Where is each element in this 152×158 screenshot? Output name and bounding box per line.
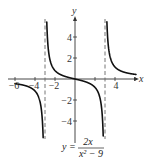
x-tick-label: −2	[49, 80, 60, 91]
curve-branch	[107, 22, 136, 75]
y-tick-label: 2	[67, 53, 72, 64]
x-tick-label: −4	[29, 80, 40, 91]
equation-lhs: y =	[61, 141, 76, 152]
y-tick-label: 4	[67, 32, 72, 43]
x-axis-label: x	[138, 73, 144, 84]
rational-function-graph: −6−4−2442−2−4 x y y = 2x x² − 9	[0, 0, 152, 158]
y-axis-arrow-icon	[73, 16, 77, 21]
curve-branch	[15, 84, 43, 138]
equation-numerator: 2x	[83, 136, 93, 147]
equation-denominator: x² − 9	[78, 148, 103, 158]
x-tick-label: 4	[114, 80, 119, 91]
equation: y = 2x x² − 9	[61, 136, 104, 158]
y-tick-label: −4	[61, 116, 72, 127]
x-tick-label: −6	[9, 80, 20, 91]
y-axis-label: y	[71, 5, 77, 16]
axes	[8, 16, 139, 143]
y-tick-label: −2	[61, 95, 72, 106]
